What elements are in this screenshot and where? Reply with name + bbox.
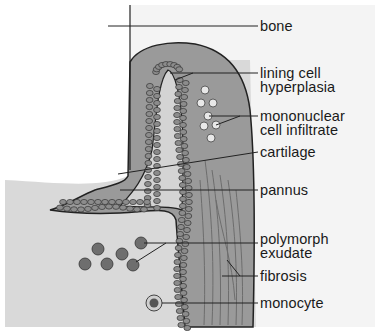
label-fibrosis: fibrosis	[260, 269, 307, 283]
joint-space	[0, 0, 130, 182]
label-pannus: pannus	[260, 183, 308, 197]
label-monocyte: monocyte	[260, 296, 324, 310]
label-polymorph-exudate: polymorphexudate	[260, 232, 329, 260]
label-lining-cell-hyperplasia: lining cellhyperplasia	[260, 66, 335, 94]
label-bone: bone	[260, 19, 293, 33]
monocyte-cell	[146, 295, 162, 311]
label-mononuclear-cell-infiltrate: mononuclearcell infiltrate	[260, 109, 345, 137]
label-cartilage: cartilage	[260, 145, 316, 159]
pannus-diagram	[0, 0, 378, 331]
